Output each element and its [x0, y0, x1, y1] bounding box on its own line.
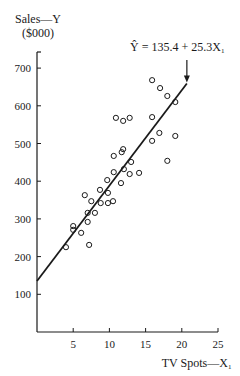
scatter-plot: 100200300400500600700510152025: [0, 0, 240, 376]
data-point: [157, 130, 162, 135]
x-tick-label: 5: [70, 338, 76, 350]
data-point: [121, 118, 126, 123]
data-point: [63, 245, 68, 250]
data-point: [110, 199, 115, 204]
data-point: [129, 159, 134, 164]
data-point: [127, 171, 132, 176]
data-point: [165, 158, 170, 163]
data-point: [173, 133, 178, 138]
arrow-head-icon: [184, 76, 190, 83]
x-tick-label: 10: [104, 338, 116, 350]
y-tick-label: 600: [15, 100, 32, 112]
data-point: [98, 200, 103, 205]
data-point: [87, 242, 92, 247]
y-tick-label: 700: [15, 62, 32, 74]
data-point: [105, 200, 110, 205]
data-point: [165, 93, 170, 98]
data-point: [118, 180, 123, 185]
y-tick-label: 300: [15, 213, 32, 225]
data-point: [157, 85, 162, 90]
annotation-arrow: [184, 60, 190, 83]
data-point: [79, 230, 84, 235]
data-point: [97, 187, 102, 192]
y-tick-label: 400: [15, 175, 32, 187]
data-point: [105, 177, 110, 182]
regression-line: [37, 84, 187, 281]
data-point: [150, 138, 155, 143]
data-point: [111, 153, 116, 158]
y-tick-label: 500: [15, 138, 32, 150]
x-tick-label: 15: [140, 338, 152, 350]
x-tick-label: 25: [213, 338, 225, 350]
data-point: [92, 210, 97, 215]
data-point: [89, 199, 94, 204]
data-point: [150, 78, 155, 83]
data-point: [105, 190, 110, 195]
data-point: [127, 115, 132, 120]
x-tick-label: 20: [176, 338, 188, 350]
data-point: [150, 115, 155, 120]
y-tick-label: 200: [15, 251, 32, 263]
data-point: [113, 115, 118, 120]
data-point: [111, 170, 116, 175]
data-point: [85, 219, 90, 224]
axes: 100200300400500600700510152025: [15, 52, 225, 350]
data-point: [82, 193, 87, 198]
y-tick-label: 100: [15, 288, 32, 300]
data-point: [136, 170, 141, 175]
fitted-line: [37, 84, 187, 281]
